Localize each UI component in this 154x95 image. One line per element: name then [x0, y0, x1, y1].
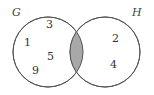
element-label-1: 1 — [24, 37, 31, 48]
element-label-4: 4 — [110, 59, 117, 70]
element-label-9: 9 — [32, 65, 39, 76]
element-label-2: 2 — [112, 33, 119, 44]
set-label-H: H — [132, 7, 142, 18]
venn-diagram-figure: G H 3 1 5 9 2 4 — [0, 0, 154, 95]
element-label-3: 3 — [46, 19, 53, 30]
set-label-G: G — [12, 7, 21, 18]
element-label-5: 5 — [47, 51, 54, 62]
